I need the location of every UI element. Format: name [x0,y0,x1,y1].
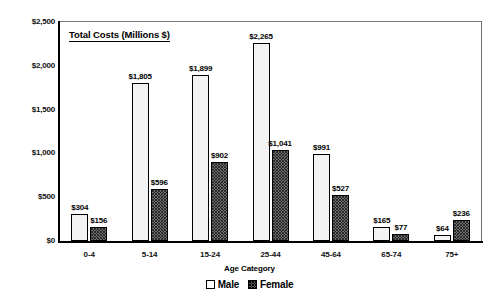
x-axis-tick-label: 25-44 [243,250,299,259]
legend-item-female: Female [248,279,293,290]
legend-swatch-icon [248,280,257,289]
y-axis-tick-label: $1,500 [3,105,55,114]
y-axis-tick-label: $2,000 [3,61,55,70]
y-axis-tick-label: $2,500 [3,17,55,26]
plot-area [58,21,482,242]
x-axis-title: Age Category [0,264,499,273]
x-axis-tick-label: 65-74 [363,250,419,259]
y-axis-tick-label: $0 [3,236,55,245]
chart-legend: MaleFemale [0,279,499,290]
chart-title: Total Costs (Millions $) [69,29,170,42]
bar-chart: $2,500$2,000$1,500$1,000$500$0 Total Cos… [0,0,499,303]
x-axis-line [58,241,483,243]
x-axis-tick-label: 75+ [424,250,480,259]
y-axis-line [58,21,60,243]
x-axis-tick-label: 0-4 [61,250,117,259]
y-axis-tick-labels: $2,500$2,000$1,500$1,000$500$0 [0,0,55,303]
legend-item-male: Male [206,279,239,290]
y-axis-tick-label: $500 [3,192,55,201]
legend-label: Male [218,279,239,290]
x-axis-tick-label: 45-64 [303,250,359,259]
x-axis-tick-label: 5-14 [122,250,178,259]
y-axis-tick-label: $1,000 [3,148,55,157]
x-axis-tick-label: 15-24 [182,250,238,259]
legend-swatch-icon [206,280,215,289]
legend-label: Female [260,279,293,290]
